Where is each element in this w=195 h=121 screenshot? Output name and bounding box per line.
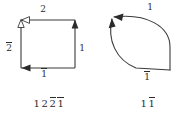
figure-root: 2 2 1 1 1221 1 1 11 [0, 0, 195, 121]
edge-label-right: 1 [74, 44, 90, 53]
edge-label-bottom-glyph: 1 [41, 70, 48, 79]
arrowhead-bottom-solid-left [22, 64, 31, 71]
caption-glyph-4: 1 [57, 99, 65, 109]
edge-label-bottom: 1 [34, 70, 54, 79]
edge-label-top: 2 [30, 5, 56, 14]
bigon-caption-glyph-2: 1 [148, 99, 156, 109]
bigon-caption-word: 11 [134, 99, 162, 109]
bigon-edge-lower-arc [111, 19, 170, 70]
edge-label-left-glyph: 2 [6, 44, 13, 53]
bigon-caption-glyph-1: 1 [140, 99, 148, 109]
edge-label-left: 2 [1, 44, 17, 53]
caption-glyph-2: 2 [41, 99, 49, 109]
arrowhead-right-solid-up [72, 20, 79, 29]
bigon-edge-label-top: 1 [141, 3, 159, 12]
bigon-edge-label-bottom-glyph: 1 [144, 73, 151, 82]
caption-glyph-3: 2 [49, 99, 57, 109]
bigon-edge-upper-arc [114, 16, 170, 70]
bigon-lens-diagram: 1 1 11 [98, 0, 195, 121]
bigon-edge-label-top-glyph: 1 [147, 3, 154, 12]
edge-label-right-glyph: 1 [79, 44, 86, 53]
arrowhead-lower-solid-up [109, 18, 116, 28]
caption-glyph-1: 1 [33, 99, 41, 109]
edge-label-top-glyph: 2 [40, 5, 47, 14]
square-polygon-diagram: 2 2 1 1 1221 [0, 0, 98, 121]
arrowhead-upper-solid-left [114, 14, 124, 21]
square-caption-word: 1221 [19, 99, 79, 109]
arrowhead-top-open-left [22, 17, 30, 24]
bigon-edge-label-bottom: 1 [138, 73, 156, 82]
